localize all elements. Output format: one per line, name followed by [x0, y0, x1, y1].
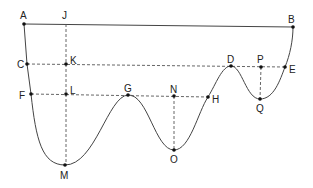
point-a	[22, 22, 26, 26]
point-k	[64, 62, 68, 66]
diagram-canvas: A J B C K D P E F L G N H M O Q	[0, 0, 313, 188]
label-m: M	[60, 170, 68, 181]
diagram-svg: A J B C K D P E F L G N H M O Q	[0, 0, 313, 188]
labels: A J B C K D P E F L G N H M O Q	[17, 10, 296, 181]
label-a: A	[20, 10, 27, 21]
dashed-segment-pq	[260, 67, 261, 99]
label-b: B	[288, 14, 295, 25]
point-m	[63, 163, 67, 167]
dashed-segment-fh	[31, 94, 208, 97]
point-q	[258, 97, 262, 101]
label-p: P	[257, 54, 264, 65]
point-c	[25, 62, 29, 66]
label-j: J	[62, 10, 67, 21]
point-l	[64, 92, 68, 96]
point-f	[29, 92, 33, 96]
label-e: E	[289, 64, 296, 75]
label-g: G	[124, 83, 132, 94]
label-l: L	[70, 85, 76, 96]
label-h: H	[212, 94, 219, 105]
label-n: N	[170, 84, 177, 95]
label-f: F	[19, 90, 25, 101]
label-q: Q	[256, 103, 264, 114]
segment-ab	[24, 24, 293, 27]
label-d: D	[227, 54, 234, 65]
label-c: C	[17, 59, 24, 70]
point-e	[283, 65, 287, 69]
point-b	[291, 25, 295, 29]
point-h	[206, 95, 210, 99]
point-p	[259, 65, 263, 69]
label-k: K	[70, 55, 77, 66]
point-o	[172, 148, 176, 152]
label-o: O	[170, 154, 178, 165]
